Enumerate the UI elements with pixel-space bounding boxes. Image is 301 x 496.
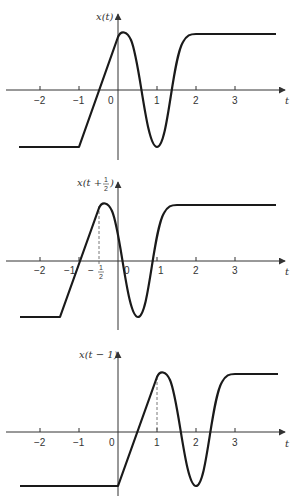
signal-curve bbox=[20, 203, 276, 317]
t-axis-label: t bbox=[285, 266, 290, 277]
tick-label-2: 2 bbox=[193, 437, 199, 448]
tick-label-m2: −2 bbox=[34, 265, 46, 276]
tick-label-m2: −2 bbox=[34, 95, 46, 106]
svg-text:x(t +: x(t + bbox=[77, 177, 102, 188]
t-axis-label: t bbox=[285, 95, 290, 106]
y-axis-label: x(t + 1 2 ) bbox=[77, 176, 114, 192]
tick-label-m1: −1 bbox=[73, 437, 85, 448]
tick-label-3: 3 bbox=[232, 95, 238, 106]
tick-label-0: 0 bbox=[109, 437, 115, 448]
tick-label-1: 1 bbox=[154, 95, 160, 106]
tick-label-2: 2 bbox=[193, 265, 199, 276]
signal-curve bbox=[20, 372, 278, 486]
tick-marks bbox=[40, 257, 235, 261]
time-shift-figure: −2 −1 0 1 2 3 t x(t) −2 −1 − 1 2 0 1 2 bbox=[0, 0, 301, 496]
tick-label-1: 1 bbox=[154, 437, 160, 448]
y-axis-label: x(t − 1) bbox=[79, 349, 118, 360]
svg-text:1: 1 bbox=[99, 264, 103, 271]
tick-label-m1: −1 bbox=[64, 265, 76, 276]
y-axis-label: x(t) bbox=[96, 11, 114, 22]
t-axis-label: t bbox=[285, 438, 290, 449]
tick-label-m1: −1 bbox=[73, 95, 85, 106]
svg-text:2: 2 bbox=[104, 185, 108, 192]
tick-label-3: 3 bbox=[232, 265, 238, 276]
tick-label-1: 1 bbox=[158, 265, 164, 276]
plot-x-of-t: −2 −1 0 1 2 3 t x(t) bbox=[6, 11, 290, 160]
tick-label-0: 0 bbox=[108, 95, 114, 106]
svg-text:1: 1 bbox=[104, 176, 108, 183]
plot-x-of-t-minus-one: −2 −1 0 1 2 3 t x(t − 1) bbox=[6, 349, 290, 496]
svg-text:−: − bbox=[88, 265, 94, 276]
tick-label-m2: −2 bbox=[34, 437, 46, 448]
svg-text:2: 2 bbox=[99, 273, 103, 280]
tick-label-2: 2 bbox=[193, 95, 199, 106]
plot-x-of-t-plus-half: −2 −1 − 1 2 0 1 2 3 t x(t + 1 2 ) bbox=[6, 176, 290, 330]
tick-label-3: 3 bbox=[232, 437, 238, 448]
svg-text:): ) bbox=[109, 177, 114, 188]
tick-label-minus-half: − 1 2 bbox=[88, 264, 104, 280]
tick-marks bbox=[40, 86, 235, 90]
